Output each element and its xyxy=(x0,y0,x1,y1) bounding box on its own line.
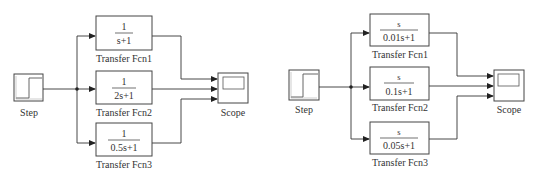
scope-block[interactable] xyxy=(218,73,248,103)
scope-screen-icon xyxy=(223,77,244,89)
tf-numerator: s xyxy=(397,72,400,82)
simulink-diagrams: Step 1 s+1 Transfer Fcn1 1 2s+1 xyxy=(0,0,538,177)
tf-denominator: 0.5s+1 xyxy=(110,142,137,153)
tf-denominator: 0.1s+1 xyxy=(385,86,412,97)
step-label: Step xyxy=(295,104,313,115)
tf-label: Transfer Fcn3 xyxy=(96,159,152,170)
transfer-fcn-block[interactable]: 1 s+1 xyxy=(96,16,152,50)
tf-label: Transfer Fcn1 xyxy=(372,49,428,60)
diagram-left: Step 1 s+1 Transfer Fcn1 1 2s+1 xyxy=(14,16,248,170)
scope-label: Scope xyxy=(497,104,522,115)
scope-block[interactable] xyxy=(494,70,524,101)
branch-point xyxy=(75,87,79,91)
transfer-fcn-block[interactable]: 1 0.5s+1 xyxy=(96,123,152,156)
tf-denominator: 2s+1 xyxy=(114,90,134,101)
tf-label: Transfer Fcn3 xyxy=(372,157,428,168)
tf-label: Transfer Fcn2 xyxy=(372,102,428,113)
transfer-fcn-block[interactable]: 1 2s+1 xyxy=(96,71,152,104)
transfer-fcn-block[interactable]: s 0.01s+1 xyxy=(370,14,429,46)
tf-label: Transfer Fcn1 xyxy=(96,53,152,64)
tf-numerator: 1 xyxy=(122,21,127,32)
diagram-right: Step s 0.01s+1 Transfer Fcn1 s 0.1s+1 xyxy=(289,14,524,168)
tf-denominator: 0.01s+1 xyxy=(383,32,415,43)
branch-point xyxy=(349,85,353,89)
step-block[interactable] xyxy=(289,70,319,100)
tf-denominator: s+1 xyxy=(117,35,132,46)
tf-label: Transfer Fcn2 xyxy=(96,107,152,118)
step-label: Step xyxy=(20,107,38,118)
tf-denominator: 0.05s+1 xyxy=(383,140,415,151)
transfer-fcn-block[interactable]: s 0.1s+1 xyxy=(370,67,429,100)
scope-label: Scope xyxy=(221,107,246,118)
scope-screen-icon xyxy=(498,74,519,86)
transfer-fcn-block[interactable]: s 0.05s+1 xyxy=(370,122,429,154)
tf-numerator: 1 xyxy=(122,76,127,87)
step-block[interactable] xyxy=(14,74,43,101)
tf-numerator: s xyxy=(397,127,400,137)
tf-numerator: s xyxy=(397,19,400,29)
tf-numerator: 1 xyxy=(122,128,127,139)
